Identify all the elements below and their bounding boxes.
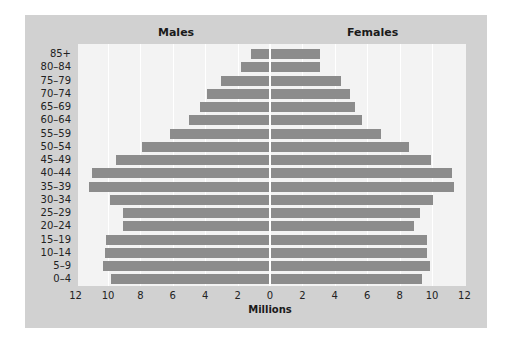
bar-female — [271, 168, 452, 178]
y-axis-label: 10–14 — [41, 247, 71, 259]
bar-female — [271, 129, 381, 139]
bar-male — [207, 89, 270, 99]
bar-female — [271, 274, 422, 284]
bar-male — [89, 182, 270, 192]
y-axis-label: 20–24 — [41, 220, 71, 232]
y-axis-label: 35–39 — [41, 181, 71, 193]
y-axis-label: 0–4 — [53, 273, 71, 285]
gridline — [432, 44, 433, 286]
bar-male — [123, 221, 270, 231]
y-axis-label: 75–79 — [41, 75, 71, 87]
y-axis-label: 25–29 — [41, 207, 71, 219]
y-axis-label: 70–74 — [41, 88, 71, 100]
bar-female — [271, 235, 427, 245]
bar-male — [116, 155, 270, 165]
females-title: Females — [347, 26, 398, 39]
x-axis-tick-label: 6 — [364, 290, 370, 302]
bar-male — [241, 62, 270, 72]
bar-male — [123, 208, 270, 218]
bar-male — [189, 115, 270, 125]
bar-female — [271, 89, 350, 99]
center-axis-line — [269, 44, 271, 286]
x-axis-tick-label: 10 — [426, 290, 439, 302]
bar-male — [200, 102, 270, 112]
bar-female — [271, 182, 454, 192]
bar-female — [271, 49, 320, 59]
x-axis-tick-label: 2 — [299, 290, 305, 302]
bar-male — [170, 129, 270, 139]
x-axis-tick-label: 4 — [332, 290, 338, 302]
bar-female — [271, 142, 409, 152]
y-axis-label: 65–69 — [41, 101, 71, 113]
x-axis-title: Millions — [248, 304, 292, 315]
bar-female — [271, 102, 355, 112]
bar-male — [110, 195, 270, 205]
x-axis-tick-label: 12 — [458, 290, 471, 302]
bar-male — [221, 76, 270, 86]
y-axis-label: 5–9 — [53, 260, 71, 272]
x-axis-tick-label: 4 — [202, 290, 208, 302]
y-axis-label: 60–64 — [41, 114, 71, 126]
x-axis-tick-label: 8 — [396, 290, 402, 302]
bar-female — [271, 221, 414, 231]
x-axis-tick-label: 10 — [102, 290, 115, 302]
y-axis-label: 85+ — [50, 48, 71, 60]
bar-female — [271, 208, 420, 218]
bar-male — [103, 261, 270, 271]
bar-female — [271, 62, 320, 72]
y-axis-label: 80–84 — [41, 61, 71, 73]
bar-male — [105, 248, 270, 258]
x-axis-tick-label: 12 — [69, 290, 82, 302]
bar-male — [142, 142, 270, 152]
bar-male — [92, 168, 270, 178]
males-title: Males — [158, 26, 194, 39]
y-axis-label: 55–59 — [41, 128, 71, 140]
bar-female — [271, 248, 427, 258]
bar-male — [106, 235, 270, 245]
y-axis-label: 30–34 — [41, 194, 71, 206]
y-axis-label: 45–49 — [41, 154, 71, 166]
bar-male — [251, 49, 270, 59]
bar-female — [271, 115, 362, 125]
x-axis-tick-label: 8 — [137, 290, 143, 302]
x-axis-tick-label: 6 — [170, 290, 176, 302]
x-axis-tick-label: 2 — [234, 290, 240, 302]
bar-female — [271, 195, 433, 205]
y-axis-label: 15–19 — [41, 234, 71, 246]
bar-male — [111, 274, 270, 284]
y-axis-label: 40–44 — [41, 167, 71, 179]
bar-female — [271, 155, 431, 165]
bar-female — [271, 261, 430, 271]
x-axis-tick-label: 0 — [267, 290, 273, 302]
bar-female — [271, 76, 341, 86]
y-axis-label: 50–54 — [41, 141, 71, 153]
plot-area — [78, 44, 466, 286]
